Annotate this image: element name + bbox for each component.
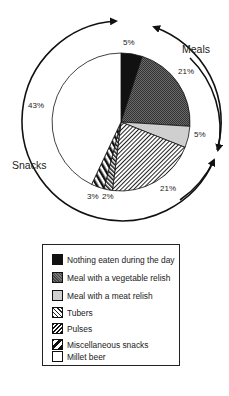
pct-pulses: 2%	[102, 192, 114, 201]
legend-item-misc-snacks: Miscellaneous snacks	[52, 339, 148, 350]
legend-label: Meal with a vegetable relish	[67, 273, 170, 283]
pct-vegetable-relish: 21%	[178, 67, 194, 76]
pct-millet-beer: 43%	[28, 101, 44, 110]
legend-item-tubers: Tubers	[52, 307, 93, 318]
pct-nothing-eaten: 5%	[123, 38, 135, 47]
pct-tubers: 21%	[160, 184, 176, 193]
legend-item-nothing-eaten: Nothing eaten during the day	[52, 254, 175, 265]
swatch-bold-stripes-icon	[52, 339, 63, 350]
pct-meat-relish: 5%	[194, 130, 206, 139]
swatch-dark-gray-icon	[52, 272, 63, 283]
legend-label: Meal with a meat relish	[67, 291, 153, 301]
label-meals: Meals	[182, 43, 210, 55]
legend-label: Millet beer	[67, 352, 106, 362]
legend-label: Miscellaneous snacks	[67, 340, 148, 350]
swatch-dense-hatch-icon	[52, 323, 63, 334]
legend-label: Pulses	[67, 324, 92, 334]
legend-item-vegetable-relish: Meal with a vegetable relish	[52, 272, 170, 283]
legend-label: Nothing eaten during the day	[67, 255, 175, 265]
legend-item-meat-relish: Meal with a meat relish	[52, 290, 153, 301]
legend-label: Tubers	[67, 308, 93, 318]
snacks-arc-arrow-start	[180, 160, 214, 200]
pie-chart: Meals Snacks 5% 21% 5% 21% 3% 2% 43%	[0, 0, 229, 240]
swatch-light-gray-icon	[52, 290, 63, 301]
label-snacks: Snacks	[12, 159, 46, 171]
pct-misc-snacks: 3%	[87, 192, 99, 201]
legend: Nothing eaten during the day Meal with a…	[42, 244, 180, 366]
legend-item-pulses: Pulses	[52, 323, 92, 334]
swatch-white-icon	[52, 351, 63, 362]
legend-item-millet-beer: Millet beer	[52, 351, 106, 362]
swatch-diagonal-hatch-icon	[52, 307, 63, 318]
pie-slices	[52, 53, 190, 191]
swatch-solid-black-icon	[52, 254, 63, 265]
